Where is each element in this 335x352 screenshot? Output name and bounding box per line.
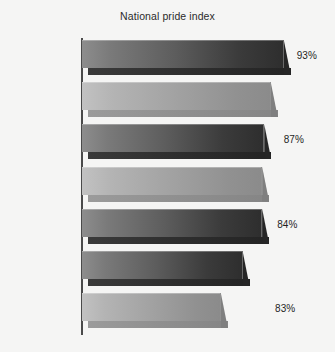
bar-face (82, 209, 262, 237)
bar-chart: National pride index Americans93%Canadia… (0, 0, 335, 352)
bar[interactable] (82, 40, 284, 68)
bar-top-highlight (82, 293, 220, 294)
bar-face (82, 293, 221, 321)
bar-row: Japanese83% (81, 165, 335, 205)
bar-top-highlight (82, 167, 261, 168)
bar-bottom-face (88, 68, 291, 75)
bar-row: Russians64% (81, 291, 335, 331)
bar-face (82, 124, 264, 152)
bar-side-face (221, 293, 228, 328)
bar[interactable] (82, 124, 264, 152)
bar[interactable] (82, 251, 243, 279)
bar-row: Americans93% (81, 38, 335, 78)
bar-bottom-face (88, 279, 250, 286)
bar-top-highlight (82, 82, 270, 83)
bar-row: Germans74% (81, 249, 335, 289)
bar-bottom-face (88, 195, 269, 202)
bar-top-highlight (82, 209, 261, 210)
bar-bottom-face (88, 152, 271, 159)
bar-face (82, 82, 271, 110)
bar-value-label: 93% (297, 51, 317, 61)
bar-row: British84% (81, 122, 335, 162)
bar[interactable] (82, 209, 262, 237)
bar-face (82, 251, 243, 279)
bar-bottom-face (88, 110, 278, 117)
bar-bottom-face (88, 237, 269, 244)
bar-side-face (243, 251, 250, 286)
bar[interactable] (82, 167, 262, 195)
bar-top-highlight (82, 251, 242, 252)
bar-top-highlight (82, 40, 283, 41)
bar-top-highlight (82, 124, 263, 125)
bar-face (82, 167, 262, 195)
bar-face (82, 40, 284, 68)
bar[interactable] (82, 293, 221, 321)
bar-row: Italians83% (81, 207, 335, 247)
bar[interactable] (82, 82, 271, 110)
bar-row: Canadians87% (81, 80, 335, 120)
chart-title: National pride index (0, 10, 335, 22)
bar-bottom-face (88, 321, 228, 328)
plot-area: Americans93%Canadians87%British84%Japane… (81, 38, 335, 338)
